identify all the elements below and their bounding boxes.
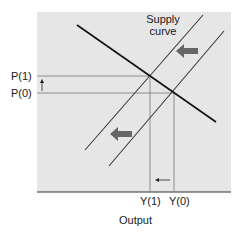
- supply-label-line1: Supply: [140, 13, 186, 25]
- plot-area: [37, 12, 231, 192]
- supply-label-line2: curve: [140, 25, 186, 37]
- x-tick-y0: Y(0): [169, 196, 190, 207]
- y-tick-p1: P(1): [11, 71, 32, 82]
- supply-curve-label: Supply curve: [140, 13, 186, 37]
- x-axis-label: Output: [119, 215, 152, 226]
- supply-demand-diagram: [0, 0, 246, 235]
- x-tick-y1: Y(1): [140, 196, 161, 207]
- y-tick-p0: P(0): [11, 88, 32, 99]
